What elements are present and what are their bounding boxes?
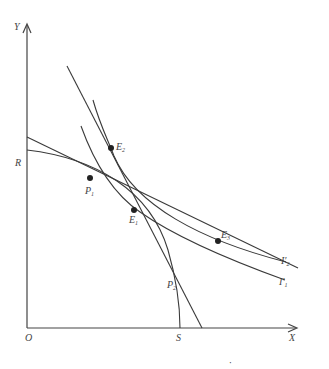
price-line-steep [67, 66, 202, 328]
price-line-shallow [27, 137, 298, 268]
label-e2: E2 [115, 141, 125, 153]
point-p1 [87, 175, 93, 181]
trade-diagram: Y X O R S P1 P2 E1 E2 E3 I′2 I′1 · [0, 0, 329, 369]
ppf-label-s: S [176, 332, 181, 343]
point-e1 [131, 207, 137, 213]
label-e1: E1 [128, 214, 138, 226]
origin-label: O [25, 332, 32, 343]
point-e2 [108, 145, 114, 151]
footer-mark: · [229, 357, 232, 368]
x-axis-label: X [288, 332, 296, 343]
label-i2-prime: I′2 [280, 255, 290, 267]
indifference-curve-2 [93, 100, 286, 262]
label-p1: P1 [84, 185, 94, 197]
label-p2: P2 [166, 279, 176, 291]
label-e3: E3 [220, 229, 230, 241]
production-possibility-frontier [27, 150, 180, 328]
y-axis-label: Y [14, 21, 21, 32]
label-i1-prime: I′1 [278, 276, 288, 288]
ppf-label-r: R [14, 157, 21, 168]
